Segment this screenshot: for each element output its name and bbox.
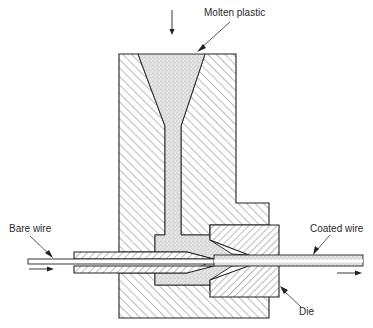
wire-coating-diagram [0, 0, 373, 328]
coated-wire-core [214, 260, 363, 263]
wire-in-arrow [29, 267, 54, 272]
coated-wire-leader-arrowhead [313, 246, 319, 255]
wire-out-arrow [337, 271, 362, 276]
bare-wire-label: Bare wire [9, 224, 51, 234]
bare-wire [28, 259, 218, 264]
die-label: Die [299, 307, 314, 317]
die-leader [283, 290, 301, 307]
plastic-feed-arrow [170, 10, 175, 35]
coated-wire-label: Coated wire [310, 224, 363, 234]
molten-plastic-leader [201, 22, 230, 48]
molten-plastic-label: Molten plastic [204, 8, 265, 18]
die-leader-arrowhead [280, 286, 288, 294]
